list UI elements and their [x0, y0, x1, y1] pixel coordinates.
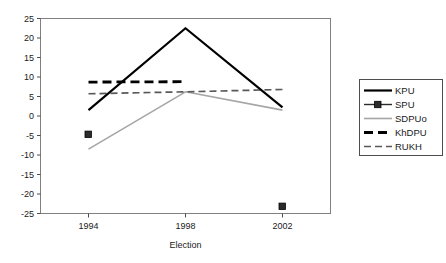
legend: KPU SPU SDPUo KhDPU RUKH — [360, 80, 443, 156]
x-axis-tick-marks — [89, 214, 283, 218]
y-tick-label: 15 — [24, 53, 34, 63]
line-chart: 25 20 15 10 5 0 -5 -10 -15 -20 -25 — [0, 0, 446, 263]
y-tick-label: -15 — [21, 170, 34, 180]
plot-area — [41, 19, 331, 214]
y-tick-label: 5 — [29, 92, 34, 102]
legend-label: RUKH — [395, 141, 422, 152]
data-point-marker — [85, 131, 91, 137]
y-axis-tick-labels: 25 20 15 10 5 0 -5 -10 -15 -20 -25 — [21, 14, 34, 219]
legend-label: KPU — [395, 85, 415, 96]
legend-marker-square-icon — [375, 101, 381, 107]
x-tick-label: 2002 — [272, 221, 292, 231]
y-tick-label: 0 — [29, 111, 34, 121]
y-tick-label: -25 — [21, 209, 34, 219]
y-axis-tick-marks — [37, 19, 41, 214]
y-tick-label: -10 — [21, 150, 34, 160]
legend-label: SDPUo — [395, 113, 427, 124]
y-tick-label: -20 — [21, 189, 34, 199]
x-axis-tick-labels: 1994 1998 2002 — [78, 221, 292, 231]
y-tick-label: -5 — [26, 131, 34, 141]
x-axis-title: Election — [169, 240, 201, 250]
x-tick-label: 1994 — [78, 221, 98, 231]
data-point-marker — [279, 203, 285, 209]
y-tick-label: 10 — [24, 72, 34, 82]
legend-label: KhDPU — [395, 127, 427, 138]
x-tick-label: 1998 — [175, 221, 195, 231]
y-tick-label: 20 — [24, 33, 34, 43]
legend-label: SPU — [395, 99, 415, 110]
y-tick-label: 25 — [24, 14, 34, 24]
